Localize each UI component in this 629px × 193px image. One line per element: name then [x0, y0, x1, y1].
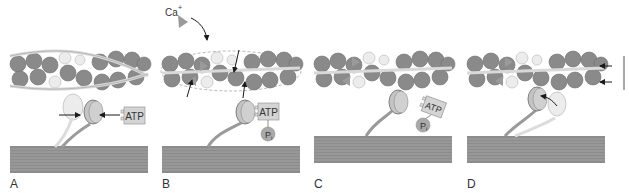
- atp-molecule: ATP: [255, 103, 279, 128]
- atp-label: ATP: [125, 111, 144, 122]
- myosin-head: [366, 90, 408, 136]
- thick-filament: [467, 136, 605, 163]
- cross-bridge-cycle-diagram: ATP A Ca + ATP: [0, 0, 629, 193]
- calcium-ion: Ca +: [165, 4, 207, 40]
- thick-filament: [162, 146, 300, 173]
- phosphate: P i: [416, 118, 430, 132]
- panel-c: ATP P i C: [314, 51, 455, 191]
- actin-filament: [161, 51, 303, 91]
- phosphate: P i: [261, 127, 275, 141]
- panel-label-b: B: [162, 177, 170, 191]
- myosin-head: [208, 100, 255, 147]
- panel-label-d: D: [467, 177, 476, 191]
- myosin-head: [505, 87, 547, 136]
- panel-a: ATP A: [10, 51, 151, 191]
- svg-text:i: i: [271, 135, 272, 141]
- thick-filament: [314, 136, 452, 163]
- actin-filament: [467, 51, 608, 90]
- panel-d: D: [467, 51, 624, 191]
- svg-text:ATP: ATP: [259, 107, 278, 118]
- panel-label-c: C: [314, 177, 323, 191]
- curved-arrow-icon: [191, 18, 207, 40]
- panel-b: Ca + ATP P i: [161, 4, 303, 191]
- thick-filament: [10, 146, 148, 173]
- calcium-triangle-icon: [178, 15, 188, 28]
- arrow-icon: [243, 82, 245, 98]
- actin-filament: [10, 51, 151, 90]
- actin-filament: [314, 51, 455, 90]
- atp-molecule: ATP: [418, 95, 446, 118]
- svg-text:+: +: [178, 4, 182, 11]
- panel-label-a: A: [10, 177, 18, 191]
- svg-text:Ca: Ca: [165, 7, 178, 18]
- svg-text:i: i: [426, 126, 427, 132]
- atp-molecule: ATP: [121, 107, 145, 124]
